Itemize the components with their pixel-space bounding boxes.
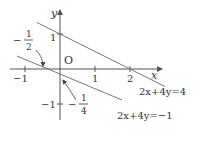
y-tick-label-minus-1: −1 <box>41 99 56 110</box>
y-tick-label-1: 1 <box>50 32 56 43</box>
origin-label: O <box>64 54 73 67</box>
equation-label-line-2: 2x+4y=−1 <box>117 110 173 121</box>
y-axis-label: y <box>50 7 58 20</box>
coordinate-diagram: y x O −1 1 2 1 −1 − 1 2 − 1 4 2x+4y=4 2x… <box>0 0 204 152</box>
x-tick-label-2: 2 <box>127 73 133 84</box>
svg-text:2: 2 <box>26 42 32 52</box>
x-tick-label-minus-1: −1 <box>13 73 28 84</box>
x-tick-label-1: 1 <box>92 73 98 84</box>
arrow-minus-quarter <box>63 80 76 100</box>
svg-text:1: 1 <box>26 29 32 39</box>
arrow-minus-half <box>36 50 43 66</box>
fraction-minus-half: − 1 2 <box>13 29 33 52</box>
equation-label-line-1: 2x+4y=4 <box>139 86 186 97</box>
svg-text:1: 1 <box>81 93 87 103</box>
fraction-minus-quarter: − 1 4 <box>68 93 88 116</box>
svg-text:−: − <box>68 99 76 110</box>
svg-text:4: 4 <box>81 106 87 116</box>
x-axis-label: x <box>151 69 158 82</box>
svg-text:−: − <box>13 35 21 46</box>
